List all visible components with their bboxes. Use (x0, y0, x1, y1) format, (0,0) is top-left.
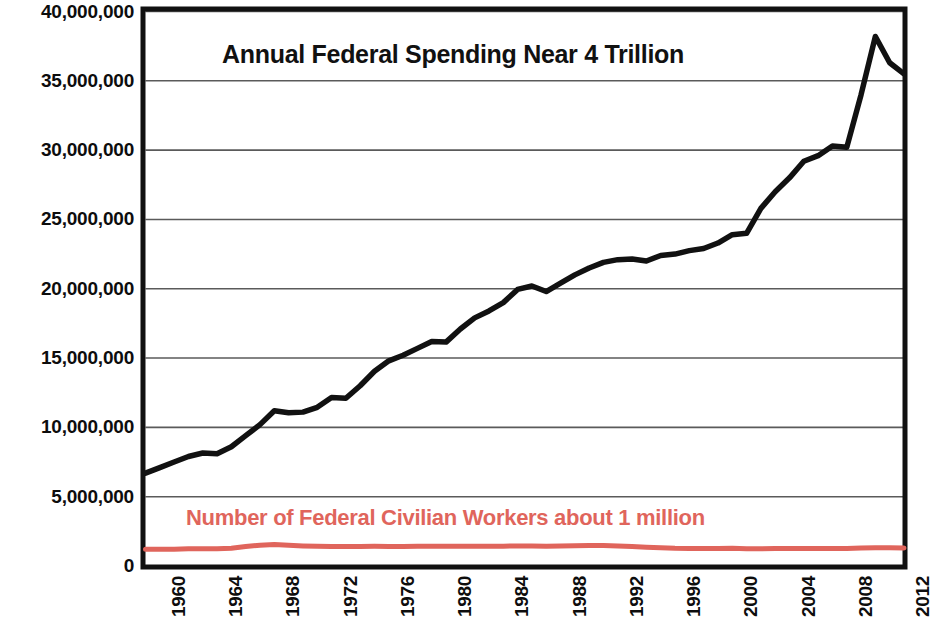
page-title: Annual Federal Spending Near 4 Trillion (222, 40, 684, 69)
x-axis-tick-label: 2004 (798, 576, 820, 617)
x-axis-tick-label: 2000 (740, 576, 762, 617)
x-axis-tick-label: 1996 (683, 576, 705, 617)
x-axis-tick-label: 1976 (397, 576, 419, 617)
series-line-federal-civilian-workers (146, 545, 905, 550)
x-axis-labels: 1960196419681972197619801984198819921996… (0, 576, 916, 642)
series-line-annual-federal-spending (146, 36, 905, 473)
x-axis-tick-label: 2012 (912, 576, 934, 617)
annotation-federal-civilian-workers: Number of Federal Civilian Workers about… (186, 505, 705, 531)
x-axis-tick-label: 1960 (168, 576, 190, 617)
x-axis-tick-label: 1984 (511, 576, 533, 617)
x-axis-tick-label: 1980 (454, 576, 476, 617)
x-axis-tick-label: 1972 (340, 576, 362, 617)
x-axis-tick-label: 1988 (569, 576, 591, 617)
x-axis-tick-label: 2008 (855, 576, 877, 617)
x-axis-tick-label: 1968 (282, 576, 304, 617)
x-axis-tick-label: 1964 (225, 576, 247, 617)
x-axis-tick-label: 1992 (626, 576, 648, 617)
